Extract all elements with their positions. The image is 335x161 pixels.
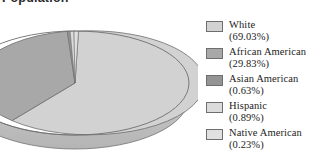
legend: White (69.03%) African American (29.83%)… [206,19,335,154]
legend-text-african-american: African American (29.83%) [229,46,335,69]
legend-text-native-american: Native American (0.23%) [229,127,335,150]
legend-item-asian-american[interactable]: Asian American (0.63%) [206,73,335,98]
legend-value-african-american: (29.83%) [229,58,335,70]
legend-item-african-american[interactable]: African American (29.83%) [206,46,335,71]
legend-label-african-american: African American [229,46,335,58]
legend-label-native-american: Native American [229,127,335,139]
legend-text-hispanic: Hispanic (0.89%) [229,100,335,123]
legend-value-hispanic: (0.89%) [229,112,335,124]
legend-label-white: White [229,19,335,31]
legend-text-asian-american: Asian American (0.63%) [229,73,335,96]
legend-label-hispanic: Hispanic [229,100,335,112]
legend-value-native-american: (0.23%) [229,139,335,151]
chart-container: Population [0,0,335,161]
legend-swatch-asian-american [206,75,223,86]
pie-chart [0,16,198,150]
legend-label-asian-american: Asian American [229,73,335,85]
legend-item-white[interactable]: White (69.03%) [206,19,335,44]
page-title: Population [2,0,122,5]
legend-value-asian-american: (0.63%) [229,85,335,97]
legend-swatch-hispanic [206,102,223,113]
pie-chart-svg [0,16,198,150]
legend-swatch-african-american [206,48,223,59]
legend-value-white: (69.03%) [229,31,335,43]
legend-item-native-american[interactable]: Native American (0.23%) [206,127,335,152]
legend-text-white: White (69.03%) [229,19,335,42]
legend-item-hispanic[interactable]: Hispanic (0.89%) [206,100,335,125]
legend-swatch-native-american [206,129,223,140]
legend-swatch-white [206,21,223,32]
